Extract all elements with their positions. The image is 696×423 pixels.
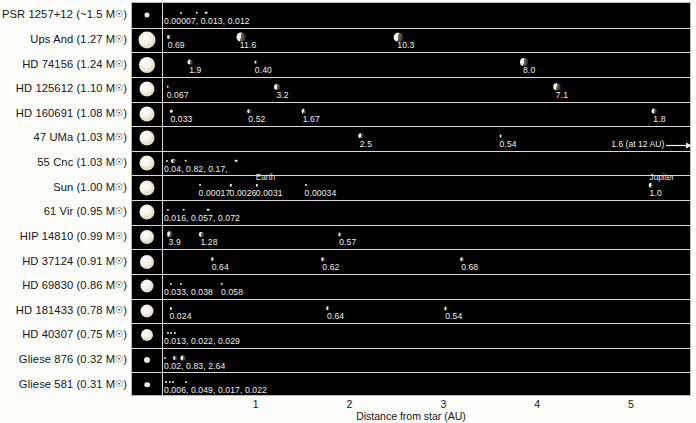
system-row: 0.00007, 0.013, 0.012	[132, 3, 690, 28]
plot-area: 0.00007, 0.013, 0.0120.6911.610.31.90.40…	[131, 2, 691, 396]
x-axis-tick: 3	[440, 398, 446, 410]
planet-mass-label: 1.0	[650, 188, 662, 198]
star-label: Ups And (1.27 M☉)	[0, 27, 127, 52]
planet-marker	[301, 109, 306, 114]
planet-mass-label: 0.57	[339, 237, 356, 247]
planet-marker	[499, 134, 502, 137]
planet-marker	[256, 184, 258, 186]
star-label: 55 Cnc (1.03 M☉)	[0, 150, 127, 175]
star-label-column: PSR 1257+12 (~1.5 M☉)Ups And (1.27 M☉)HD…	[0, 0, 131, 396]
planet-mass-label-group: 0.016, 0.057, 0.072	[164, 213, 240, 223]
planet-mass-label: 0.64	[212, 262, 229, 272]
system-row: 0.016, 0.057, 0.072	[132, 200, 690, 225]
star-label: HIP 14810 (0.99 M☉)	[0, 224, 127, 249]
planet-marker	[221, 283, 223, 285]
host-star-disc	[140, 131, 155, 146]
star-label: HD 125612 (1.10 M☉)	[0, 76, 127, 101]
star-label: 47 UMa (1.03 M☉)	[0, 125, 127, 150]
host-star-disc	[141, 304, 154, 317]
off-scale-arrow-icon	[666, 142, 692, 149]
planet-marker	[211, 257, 215, 261]
x-axis: Distance from star (AU) 12345	[131, 396, 691, 423]
planet-mass-label: 10.3	[397, 40, 414, 50]
star-label: Gliese 581 (0.31 M☉)	[0, 371, 127, 396]
system-row: 0.0330.521.671.8	[132, 102, 690, 127]
planet-marker	[180, 283, 182, 285]
planet-marker	[167, 232, 173, 238]
planet-marker	[180, 355, 185, 360]
planet-marker	[339, 233, 342, 236]
host-star-disc	[140, 156, 155, 171]
planet-marker	[195, 12, 198, 15]
planet-marker	[169, 307, 171, 309]
planet-marker	[460, 257, 464, 261]
star-label: HD 181433 (0.78 M☉)	[0, 298, 127, 323]
planet-marker	[652, 109, 657, 114]
star-label: Sun (1.00 M☉)	[0, 174, 127, 199]
planet-marker	[199, 232, 203, 236]
planet-marker	[172, 381, 174, 383]
planet-mass-label: 1.9	[189, 65, 201, 75]
system-row: 0.640.620.68	[132, 249, 690, 274]
planet-mass-label: 1.67	[303, 114, 320, 124]
planet-marker	[322, 257, 326, 261]
system-row: 0.000170.0026Earth0.00310.00034Jupiter1.…	[132, 175, 690, 200]
star-label: PSR 1257+12 (~1.5 M☉)	[0, 2, 127, 27]
system-row: 0.0673.27.1	[132, 77, 690, 102]
planet-mass-label: 1.8	[653, 114, 665, 124]
planet-marker	[167, 209, 169, 211]
planet-marker	[165, 381, 167, 383]
planet-mass-label-group: 0.02, 0.83, 2.64	[164, 361, 225, 371]
planet-mass-label: 0.52	[248, 114, 265, 124]
host-star-disc	[141, 329, 153, 341]
planet-mass-label: 7.1	[556, 90, 568, 100]
star-label: 61 Vir (0.95 M☉)	[0, 199, 127, 224]
planet-mass-label: 0.62	[322, 262, 339, 272]
planet-marker	[166, 160, 168, 162]
host-star-disc	[139, 57, 155, 73]
star-label: Gliese 876 (0.32 M☉)	[0, 347, 127, 372]
planet-mass-label: 0.64	[327, 311, 344, 321]
planet-mass-label: 0.54	[500, 139, 517, 149]
planet-marker	[182, 209, 185, 212]
planet-marker	[185, 381, 187, 383]
x-axis-title: Distance from star (AU)	[131, 410, 691, 422]
planet-marker	[167, 35, 171, 39]
host-star-disc	[140, 205, 155, 220]
planet-mass-label-group: 0.013, 0.022, 0.029	[164, 336, 240, 346]
x-axis-tick: 4	[534, 398, 540, 410]
planet-marker	[199, 184, 201, 186]
planet-mass-label-group: 0.00007, 0.013, 0.012	[164, 16, 250, 26]
host-star-disc	[140, 180, 155, 195]
host-star-disc	[140, 230, 154, 244]
planet-marker	[174, 332, 176, 334]
x-axis-tick: 2	[347, 398, 353, 410]
planet-mass-label-group: 0.04, 0.82, 0.17,	[164, 164, 228, 174]
planet-mass-label: 11.6	[240, 40, 257, 50]
planet-mass-label: 0.067	[167, 90, 189, 100]
host-star-disc	[144, 382, 150, 388]
planet-name-label: Earth	[256, 173, 276, 182]
system-row: 1.90.408.0	[132, 52, 690, 77]
system-row: 0.0240.640.54	[132, 299, 690, 324]
planet-marker	[445, 307, 448, 310]
planet-mass-label: 3.9	[169, 237, 181, 247]
planet-mass-label: 0.0026	[230, 188, 257, 198]
planet-marker	[167, 332, 169, 334]
planet-mass-label: 3.2	[276, 90, 288, 100]
host-star-disc	[140, 82, 155, 97]
planet-marker	[170, 110, 172, 112]
planet-marker	[648, 183, 652, 187]
planet-mass-label: 8.0	[523, 65, 535, 75]
system-row: 3.91.280.57	[132, 225, 690, 250]
planet-marker	[171, 159, 175, 163]
planet-marker	[358, 133, 363, 138]
x-axis-tick: 5	[628, 398, 634, 410]
planet-marker	[254, 61, 257, 64]
host-star-disc	[145, 13, 150, 18]
planet-marker	[164, 357, 166, 359]
host-star-disc	[140, 106, 155, 121]
planet-mass-label-group: 0.033, 0.038	[164, 287, 213, 297]
planet-marker	[247, 110, 251, 114]
star-label: HD 69830 (0.86 M☉)	[0, 273, 127, 298]
